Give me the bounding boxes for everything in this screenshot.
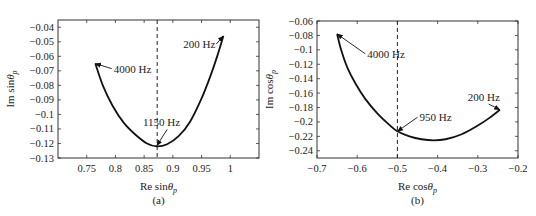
x-tick-label: −0.6: [348, 163, 367, 174]
y-tick-label: −0.04: [30, 22, 55, 33]
chart-panel-b: −0.7−0.6−0.5−0.4−0.3−0.2−0.06−0.08−0.1−0…: [263, 16, 528, 208]
y-axis-label: Im sinθp: [4, 70, 19, 107]
y-tick-label: −0.08: [30, 80, 54, 91]
y-tick-label: −0.06: [30, 51, 54, 62]
y-tick-label: −0.09: [30, 94, 54, 105]
chart-panel-a: 0.750.80.850.90.951−0.04−0.05−0.06−0.07−…: [4, 20, 259, 207]
annotation-label: 4000 Hz: [114, 63, 152, 75]
panel-label: (b): [411, 194, 424, 207]
y-tick-label: −0.06: [289, 16, 313, 27]
annotation-arrow: [397, 117, 417, 131]
y-tick-label: −0.08: [289, 30, 313, 41]
annotation-label: 950 Hz: [420, 111, 452, 123]
x-tick-label: −0.3: [468, 163, 487, 174]
x-tick-label: 0.8: [109, 163, 122, 174]
data-curve: [95, 36, 223, 146]
y-tick-label: −0.14: [289, 73, 314, 84]
x-tick-label: 1: [228, 163, 233, 174]
x-tick-label: −0.7: [307, 163, 326, 174]
y-tick-label: −0.16: [289, 88, 313, 99]
y-tick-label: −0.1: [35, 109, 54, 120]
annotation-arrow: [489, 104, 500, 110]
x-axis-label: Re sinθp: [140, 180, 177, 195]
y-tick-label: −0.12: [289, 59, 313, 70]
x-tick-label: 0.9: [166, 163, 179, 174]
annotation-label: 1150 Hz: [143, 116, 180, 128]
annotation-arrow: [157, 129, 167, 145]
y-tick-label: −0.07: [30, 65, 54, 76]
annotation-label: 4000 Hz: [367, 48, 405, 60]
x-tick-label: 0.95: [192, 163, 210, 174]
x-tick-label: −0.5: [388, 163, 407, 174]
y-axis-label: Im cosθp: [263, 70, 278, 109]
y-tick-label: −0.13: [30, 153, 54, 164]
data-curve: [337, 34, 500, 140]
y-tick-label: −0.24: [289, 145, 314, 156]
x-tick-label: 0.85: [135, 163, 153, 174]
y-tick-label: −0.1: [294, 44, 313, 55]
annotation-label: 200 Hz: [468, 91, 500, 103]
y-tick-label: −0.12: [30, 138, 54, 149]
annotation-label: 200 Hz: [183, 38, 215, 50]
figure: 0.750.80.850.90.951−0.04−0.05−0.06−0.07−…: [0, 0, 536, 216]
x-axis-label: Re cosθp: [398, 180, 437, 195]
x-tick-label: 0.75: [78, 163, 96, 174]
x-tick-label: −0.2: [508, 163, 527, 174]
x-tick-label: −0.4: [428, 163, 448, 174]
panel-label: (a): [152, 194, 165, 207]
annotation-arrow: [95, 64, 111, 69]
y-tick-label: −0.05: [30, 36, 54, 47]
y-tick-label: −0.11: [30, 123, 54, 134]
y-tick-label: −0.18: [289, 102, 313, 113]
y-tick-label: −0.2: [294, 116, 313, 127]
y-tick-label: −0.22: [289, 131, 313, 142]
axes-frame: [58, 20, 259, 158]
